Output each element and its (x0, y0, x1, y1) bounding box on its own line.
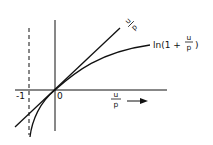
function-plot: u p ln(1 + u p ) -1 0 u p (0, 0, 213, 145)
curve-label: ln(1 + u p ) (153, 33, 199, 52)
curve-label-numerator: u (187, 33, 192, 42)
curve-label-suffix: ) (195, 40, 199, 50)
curve-ln-1-plus-u-over-p (30, 45, 150, 137)
tick-label-minus-one: -1 (16, 91, 25, 101)
tick-label-origin: 0 (57, 91, 63, 101)
x-label-numerator: u (114, 90, 119, 99)
x-axis-label: u p (111, 90, 148, 109)
line-label: u p (122, 15, 140, 33)
line-label-denominator: p (129, 22, 139, 32)
x-axis-arrowhead-icon (140, 98, 148, 104)
curve-label-denominator: p (187, 43, 192, 52)
line-u-over-p (15, 28, 120, 127)
curve-label-prefix: ln(1 + (153, 40, 181, 50)
x-label-denominator: p (114, 100, 119, 109)
